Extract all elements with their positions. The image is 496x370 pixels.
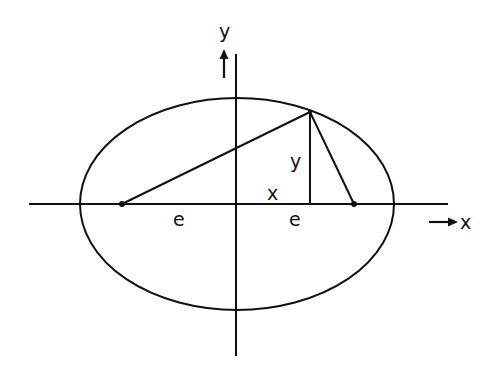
right-focal-radius xyxy=(310,112,354,204)
point-x-label: x xyxy=(267,182,278,204)
right-e-label: e xyxy=(289,208,301,230)
x-axis-arrow-icon xyxy=(429,218,458,227)
y-axis-arrow-icon xyxy=(220,49,229,78)
right-focus-point xyxy=(351,201,357,207)
ellipse-diagram: y x y x e e xyxy=(0,0,496,370)
ellipse-point xyxy=(308,110,312,114)
point-y-label: y xyxy=(290,150,301,172)
y-axis-label: y xyxy=(219,20,230,42)
left-e-label: e xyxy=(173,208,185,230)
x-axis-label: x xyxy=(460,211,471,233)
left-focus-point xyxy=(119,201,125,207)
left-focal-radius xyxy=(122,112,310,204)
